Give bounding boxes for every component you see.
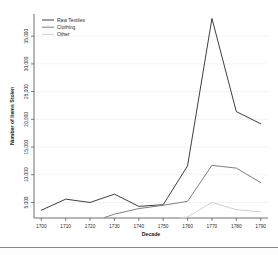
line-chart: 5,00010,00015,00020,00025,00030,00035,00… [0,0,278,240]
x-tick-label: 1780 [231,224,242,229]
x-axis-title: Decade [142,231,161,237]
legend-label-raw-textiles: Raw Textiles [57,17,85,23]
x-tick-label: 1770 [207,224,218,229]
x-tick-label: 1730 [109,224,120,229]
x-tick-label: 1710 [60,224,71,229]
x-tick-label: 1790 [255,224,266,229]
chart-figure: 5,00010,00015,00020,00025,00030,00035,00… [0,0,278,240]
page-bottom-area [0,248,278,255]
x-tick-label: 1760 [182,224,193,229]
x-tick-label: 1720 [85,224,96,229]
y-tick-label: 5,000 [24,196,29,208]
x-tick-label: 1700 [36,224,47,229]
y-tick-label: 30,000 [24,56,29,71]
legend-label-other: Other [57,31,70,37]
y-axis-title: Number of Items Stolen [9,87,15,145]
y-tick-label: 10,000 [24,167,29,182]
y-tick-label: 20,000 [24,112,29,127]
y-tick-label: 25,000 [24,84,29,99]
legend-label-clothing: Clothing [57,24,76,30]
y-tick-label: 15,000 [24,139,29,154]
x-tick-label: 1750 [158,224,169,229]
y-tick-label: 35,000 [24,29,29,44]
x-tick-label: 1740 [133,224,144,229]
